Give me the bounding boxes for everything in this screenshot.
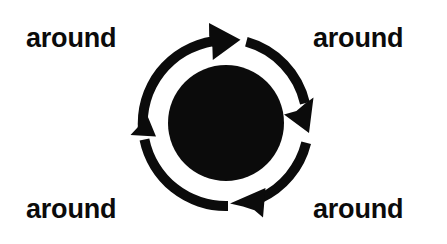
center-circle-icon xyxy=(168,65,284,181)
arrowhead-right-icon xyxy=(209,23,241,60)
arrowhead-left-icon xyxy=(230,188,266,218)
cycle-arrows-graphic xyxy=(0,0,447,244)
diagram-canvas: around around around around xyxy=(0,0,447,244)
arrowhead-up-icon xyxy=(131,105,157,137)
arrowhead-down-icon xyxy=(284,98,314,134)
